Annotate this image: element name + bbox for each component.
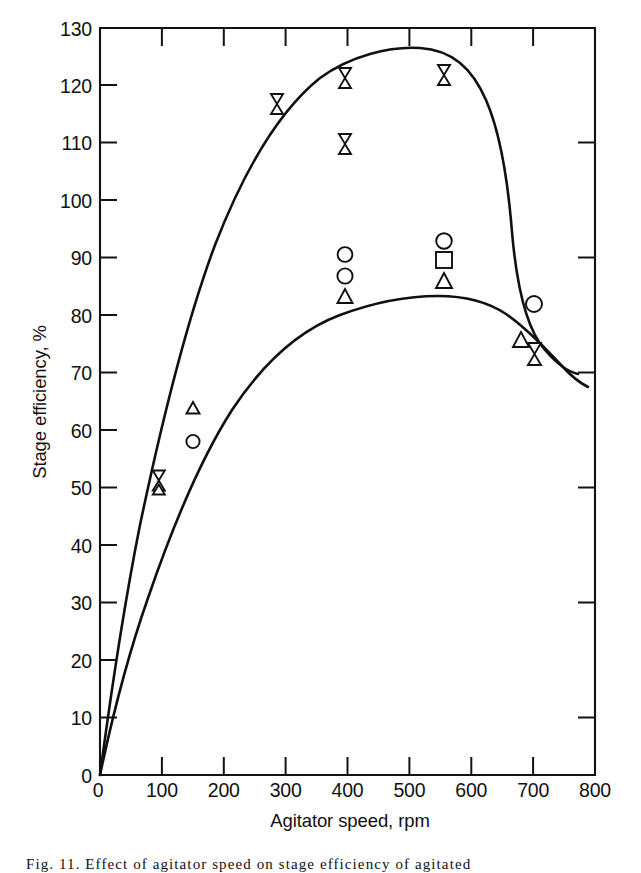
marker-circle [526, 296, 542, 312]
ytick-label: 0 [81, 765, 92, 787]
ytick-label: 70 [71, 362, 93, 384]
xtick-label: 500 [393, 779, 425, 801]
marker-circle [436, 233, 452, 249]
ytick-label: 50 [71, 477, 93, 499]
y-axis-ticks-right [578, 143, 595, 718]
upper-curve [100, 48, 578, 775]
marker-hourglass [528, 343, 541, 365]
ytick-label: 10 [71, 707, 93, 729]
stage-efficiency-chart: 0 10 20 30 40 50 60 70 80 90 100 110 120… [0, 0, 641, 873]
lower-curve [100, 296, 588, 775]
marker-hourglass [339, 68, 351, 88]
y-axis-title: Stage efficiency, % [29, 325, 50, 479]
marker-square [436, 252, 452, 268]
marker-triangle [338, 289, 353, 303]
marker-hourglass [271, 94, 283, 114]
ytick-label: 130 [60, 18, 92, 40]
ytick-label: 100 [60, 190, 92, 212]
ytick-label: 120 [60, 75, 92, 97]
marker-circle [338, 247, 353, 262]
marker-hourglass [339, 134, 351, 154]
marker-triangle [187, 402, 200, 414]
figure-caption: Fig. 11. Effect of agitator speed on sta… [26, 855, 626, 873]
marker-hourglass [438, 65, 450, 85]
x-axis-tick-labels: 0 100 200 300 400 500 600 700 800 [93, 779, 612, 801]
marker-circle [337, 268, 352, 283]
figure-caption-text: Fig. 11. Effect of agitator speed on sta… [26, 856, 471, 872]
xtick-label: 100 [146, 779, 178, 801]
ytick-label: 90 [71, 247, 93, 269]
marker-triangle [513, 332, 529, 347]
ytick-label: 40 [71, 535, 93, 557]
ytick-label: 110 [62, 132, 93, 154]
xtick-label: 800 [579, 779, 611, 801]
ytick-label: 30 [71, 592, 93, 614]
ytick-label: 80 [71, 305, 93, 327]
marker-circle [186, 435, 199, 448]
x-axis-title: Agitator speed, rpm [270, 810, 430, 831]
xtick-label: 700 [517, 779, 549, 801]
xtick-label: 200 [208, 779, 240, 801]
x-axis-ticks [162, 757, 533, 775]
xtick-label: 300 [270, 779, 302, 801]
x-axis-ticks-top [162, 28, 533, 46]
marker-triangle [436, 273, 452, 288]
xtick-label: 600 [455, 779, 487, 801]
ytick-label: 60 [71, 420, 93, 442]
y-axis-tick-labels: 0 10 20 30 40 50 60 70 80 90 100 110 120… [60, 18, 92, 787]
xtick-label: 0 [93, 779, 104, 801]
ytick-label: 20 [71, 650, 93, 672]
xtick-label: 400 [332, 779, 364, 801]
figure-container: 0 10 20 30 40 50 60 70 80 90 100 110 120… [0, 0, 641, 873]
